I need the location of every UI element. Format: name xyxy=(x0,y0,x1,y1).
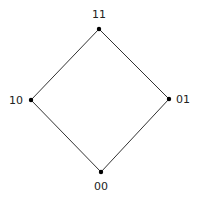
node-10 xyxy=(29,98,33,102)
node-label-00: 00 xyxy=(94,180,108,193)
edges xyxy=(31,29,169,172)
node-01 xyxy=(167,97,171,101)
node-11 xyxy=(97,27,101,31)
edge-01-00 xyxy=(101,99,169,172)
labels: 11 10 01 00 xyxy=(9,8,190,193)
edge-10-00 xyxy=(31,100,101,172)
node-label-10: 10 xyxy=(9,94,23,107)
node-label-01: 01 xyxy=(176,93,190,106)
hasse-diagram: 11 10 01 00 xyxy=(0,0,197,205)
nodes xyxy=(29,27,171,174)
edge-11-10 xyxy=(31,29,99,100)
node-00 xyxy=(99,170,103,174)
node-label-11: 11 xyxy=(92,8,106,21)
edge-11-01 xyxy=(99,29,169,99)
